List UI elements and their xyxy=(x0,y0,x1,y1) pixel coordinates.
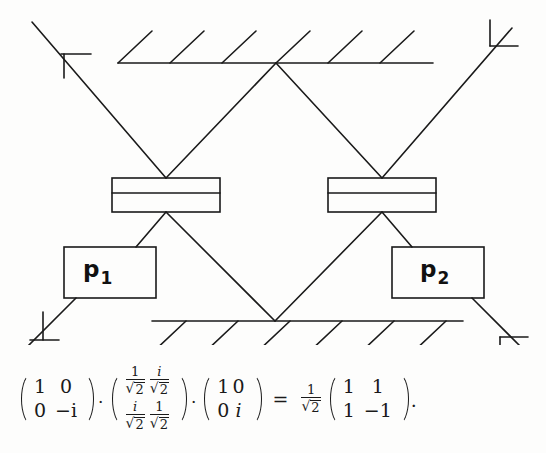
paren-left-result xyxy=(327,371,340,427)
m2-r1c1-num: 1 xyxy=(131,365,139,379)
paren-left-2 xyxy=(109,371,122,427)
equation-terminator: · xyxy=(408,394,417,416)
p2-subscript: 2 xyxy=(437,268,449,288)
paren-right-1 xyxy=(80,371,93,427)
matrix-2: 1 √2 i √2 i √2 1 √2 xyxy=(109,365,186,433)
prefactor-den: √2 xyxy=(301,397,320,416)
m2-r1c2-num: i xyxy=(157,365,161,379)
radical-sign: √ xyxy=(301,399,310,413)
matrix-1: 1 0 0 −i xyxy=(18,371,93,427)
matrix-equation: 1 0 0 −i · 1 √2 i √2 xyxy=(0,344,546,453)
paren-right-3 xyxy=(248,371,261,427)
p1-subscript: 1 xyxy=(100,268,112,288)
beam-splitter-left xyxy=(112,178,220,212)
phase-shifter-right-label: p2 xyxy=(420,258,448,281)
figure-root: p1 p2 1 0 0 −i · 1 xyxy=(0,0,546,453)
multiply-op-1: · xyxy=(93,392,108,412)
mirror-bottom xyxy=(152,321,463,345)
beam-splitter-right xyxy=(328,178,436,212)
matrix-result: 1 1 1 −1 xyxy=(327,371,408,427)
radical-sign: √ xyxy=(150,416,159,430)
m2-r2c2-num: 1 xyxy=(155,400,163,414)
paren-right-result xyxy=(395,371,408,427)
equation-expression: 1 0 0 −i · 1 √2 i √2 xyxy=(18,365,417,433)
m2-r2c1-num: i xyxy=(133,400,137,414)
p1-letter: p xyxy=(83,256,99,282)
phase-shifter-left-label: p1 xyxy=(83,258,111,281)
result-prefactor: 1 √2 xyxy=(300,383,326,416)
equals-sign: = xyxy=(261,388,301,410)
paren-right-2 xyxy=(173,371,186,427)
radical-sign: √ xyxy=(150,381,159,395)
matrix-3: 1 0 0 i xyxy=(201,371,260,427)
multiply-op-2: · xyxy=(186,392,201,412)
mirror-top xyxy=(118,31,433,63)
paren-left-1 xyxy=(18,371,31,427)
port-bottom-left xyxy=(30,312,59,340)
port-top-right xyxy=(490,20,518,46)
prefactor-num: 1 xyxy=(307,383,315,397)
mr-r1c2: 1 xyxy=(372,376,384,398)
p2-letter: p xyxy=(420,256,436,282)
m2-r2c2-den: √2 xyxy=(150,414,169,433)
beam-paths xyxy=(18,22,528,345)
paren-left-3 xyxy=(201,371,214,427)
m1-r1c2: 0 xyxy=(60,376,72,398)
interferometer-diagram xyxy=(0,0,546,345)
